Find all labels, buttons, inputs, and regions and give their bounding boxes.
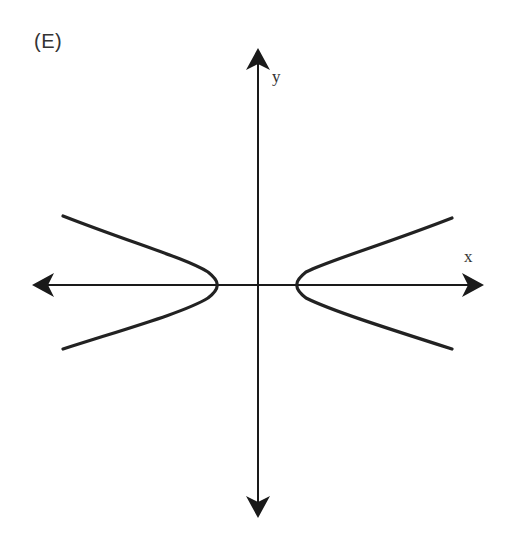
panel-label: (E) (34, 30, 62, 53)
hyperbola-left-branch (63, 216, 217, 349)
hyperbola-figure: (E) x y (0, 0, 506, 542)
y-axis-label: y (272, 67, 281, 86)
hyperbola-right-branch (297, 218, 452, 349)
plot-canvas: x y (0, 0, 506, 542)
y-axis (246, 48, 270, 518)
x-axis-label: x (464, 247, 473, 266)
